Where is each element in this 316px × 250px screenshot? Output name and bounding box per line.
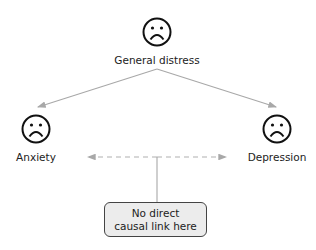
arrow-to-depression: [157, 69, 276, 107]
note-line-2: causal link here: [114, 220, 197, 233]
node-label-depression: Depression: [248, 151, 307, 163]
arrow-to-anxiety: [38, 69, 157, 107]
note-box: No direct causal link here: [104, 202, 207, 237]
node-label-general-distress: General distress: [114, 54, 199, 66]
sad-face-icon: [264, 116, 291, 143]
sad-face-icon: [144, 19, 171, 46]
sad-face-icon: [23, 116, 50, 143]
node-label-anxiety: Anxiety: [16, 151, 56, 163]
note-line-1: No direct: [132, 207, 180, 220]
